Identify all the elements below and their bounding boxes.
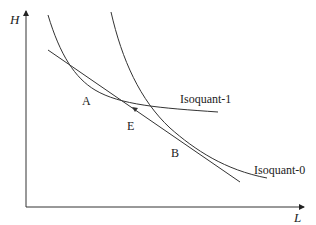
isoquant-diagram: H L A E B Isoquant-1 Isoquant-0 [0,0,316,225]
point-label-b: B [171,146,179,160]
x-axis-label: L [293,210,301,225]
isoquant-1-label: Isoquant-1 [180,92,231,106]
point-label-e: E [127,119,134,133]
isoquant-0-label: Isoquant-0 [254,163,305,177]
tangent-line [48,50,240,182]
y-axis-label: H [9,12,20,27]
point-label-a: A [82,94,91,108]
